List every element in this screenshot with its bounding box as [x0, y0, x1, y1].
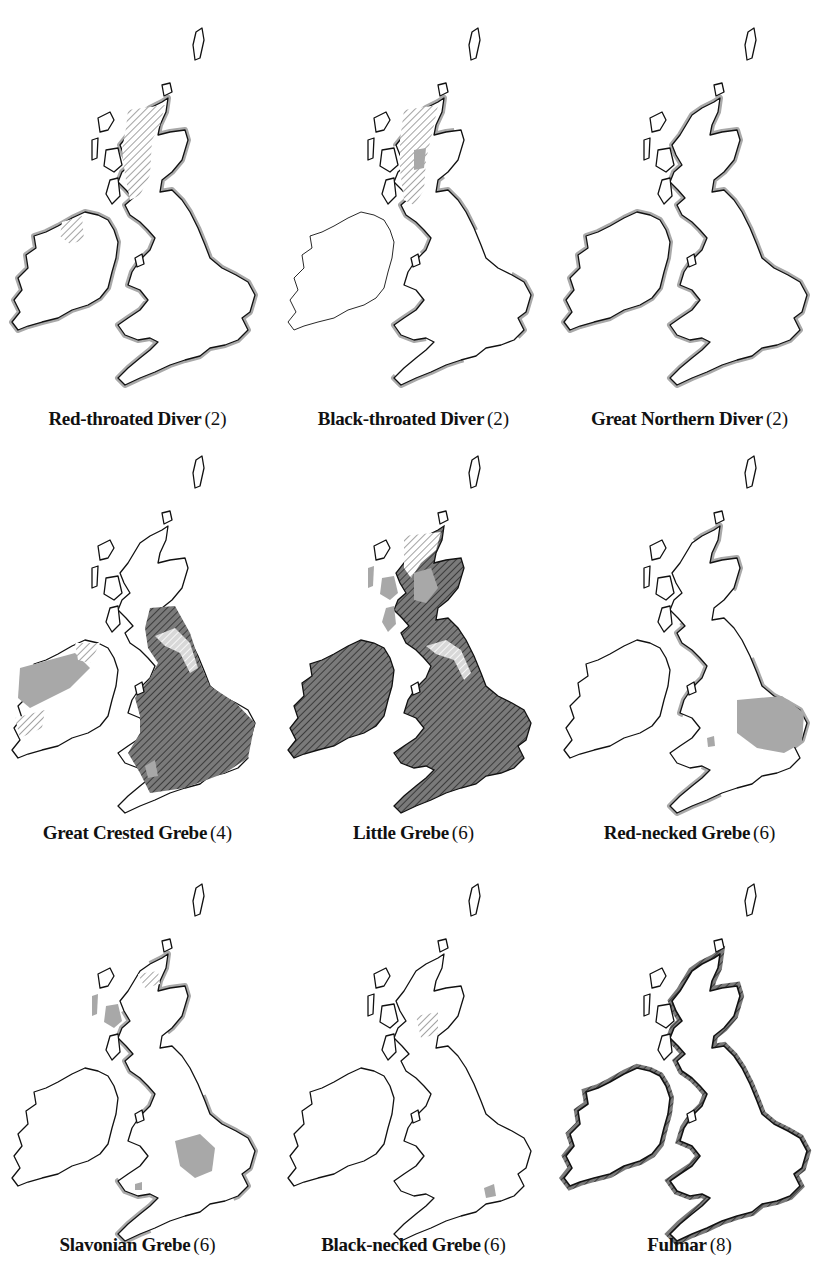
- map-cell-slavonian-grebe: Slavonian Grebe(6): [0, 856, 275, 1284]
- map-caption: Red-throated Diver(2): [0, 408, 275, 430]
- species-name: Little Grebe: [353, 822, 449, 843]
- species-name: Black-throated Diver: [318, 408, 484, 429]
- species-name: Red-throated Diver: [48, 408, 201, 429]
- map-caption: Black-necked Grebe(6): [276, 1234, 551, 1256]
- map-cell-great-crested-grebe: Great Crested Grebe(4): [0, 428, 275, 856]
- uk-map-black-necked-grebe: [276, 856, 551, 1251]
- uk-map-fulmar: [552, 856, 827, 1251]
- map-cell-red-necked-grebe: Red-necked Grebe(6): [552, 428, 827, 856]
- uk-map-slavonian-grebe: [0, 856, 275, 1251]
- uk-map-great-northern-diver: [552, 0, 827, 395]
- species-name: Fulmar: [647, 1234, 706, 1255]
- species-name: Black-necked Grebe: [321, 1234, 480, 1255]
- species-name: Red-necked Grebe: [604, 822, 750, 843]
- status-code: (6): [753, 822, 775, 843]
- uk-map-great-crested-grebe: [0, 428, 275, 823]
- status-code: (2): [766, 408, 788, 429]
- map-cell-great-northern-diver: Great Northern Diver(2): [552, 0, 827, 428]
- map-caption: Great Crested Grebe(4): [0, 822, 275, 844]
- map-caption: Red-necked Grebe(6): [552, 822, 827, 844]
- status-code: (2): [204, 408, 226, 429]
- uk-map-red-necked-grebe: [552, 428, 827, 823]
- map-caption: Great Northern Diver(2): [552, 408, 827, 430]
- map-caption: Fulmar(8): [552, 1234, 827, 1256]
- map-cell-fulmar: Fulmar(8): [552, 856, 827, 1284]
- map-caption: Slavonian Grebe(6): [0, 1234, 275, 1256]
- uk-map-black-throated-diver: [276, 0, 551, 395]
- species-name: Slavonian Grebe: [60, 1234, 191, 1255]
- status-code: (6): [193, 1234, 215, 1255]
- species-name: Great Crested Grebe: [43, 822, 207, 843]
- map-caption: Black-throated Diver(2): [276, 408, 551, 430]
- map-caption: Little Grebe(6): [276, 822, 551, 844]
- status-code: (6): [452, 822, 474, 843]
- status-code: (6): [484, 1234, 506, 1255]
- map-cell-black-throated-diver: Black-throated Diver(2): [276, 0, 551, 428]
- uk-map-red-throated-diver: [0, 0, 275, 395]
- uk-map-little-grebe: [276, 428, 551, 823]
- map-cell-black-necked-grebe: Black-necked Grebe(6): [276, 856, 551, 1284]
- distribution-map-grid: Red-throated Diver(2) Black-throated Div…: [0, 0, 827, 1284]
- map-cell-little-grebe: Little Grebe(6): [276, 428, 551, 856]
- status-code: (2): [487, 408, 509, 429]
- status-code: (8): [710, 1234, 732, 1255]
- map-cell-red-throated-diver: Red-throated Diver(2): [0, 0, 275, 428]
- species-name: Great Northern Diver: [591, 408, 763, 429]
- status-code: (4): [210, 822, 232, 843]
